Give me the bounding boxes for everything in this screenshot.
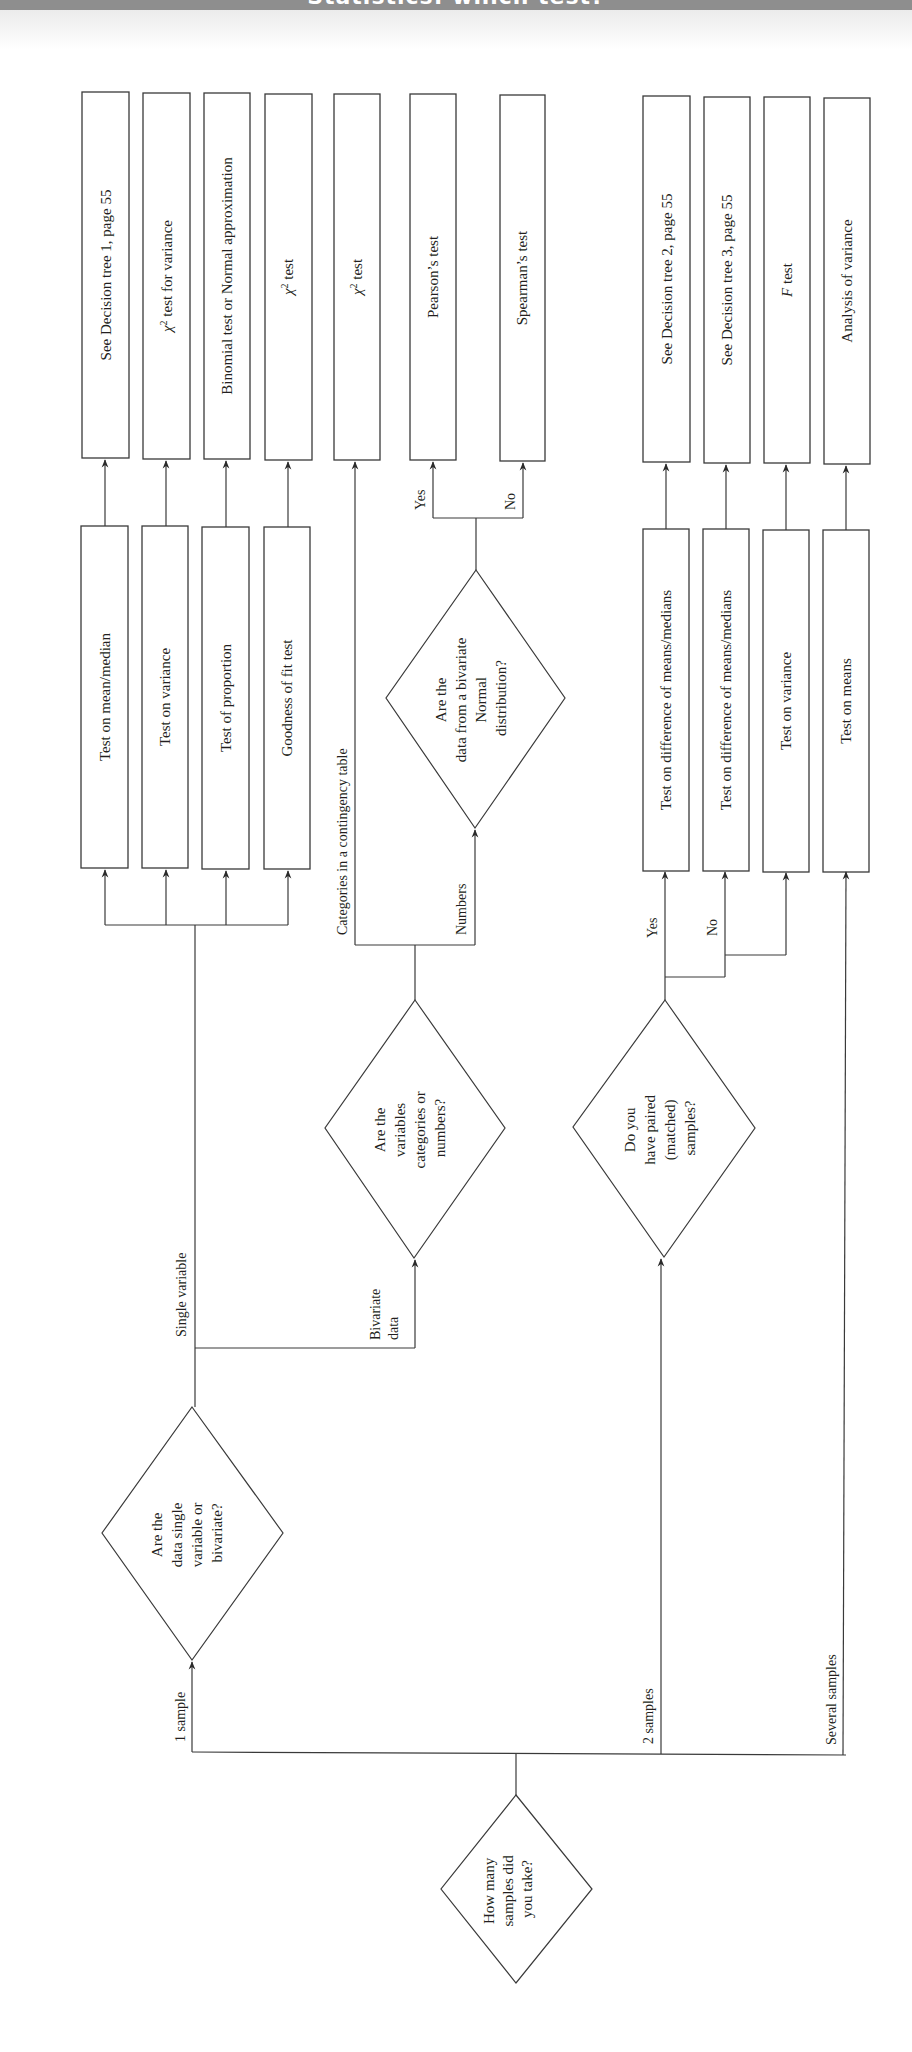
svg-text:Analysis of variance: Analysis of variance [839, 219, 855, 343]
decision-categories-or-numbers: Are the variables categories or numbers? [325, 1000, 505, 1258]
box-test-mean-median: Test on mean/median [81, 526, 128, 868]
outcome-box-binomial: Binomial test or Normal approximation [204, 93, 250, 459]
outcome-box-chi-contingency: χ2 test [334, 94, 380, 460]
svg-text:Test on difference of means/me: Test on difference of means/medians [718, 590, 734, 810]
svg-text:No: No [503, 493, 518, 510]
svg-text:Binomial test or Normal approx: Binomial test or Normal approximation [219, 157, 235, 395]
svg-text:Pearson’s test: Pearson’s test [425, 235, 441, 318]
decision-tree-diagram: See Decision tree 1, page 55 χ2 test for… [0, 0, 912, 2052]
box-test-variance-single: Test on variance [142, 526, 188, 868]
outcome-box-tree1: See Decision tree 1, page 55 [82, 92, 129, 458]
svg-text:See Decision tree 3, page 55: See Decision tree 3, page 55 [719, 195, 735, 366]
svg-text:1 sample: 1 sample [173, 1692, 188, 1742]
svg-text:Test on variance: Test on variance [157, 648, 173, 746]
box-goodness-of-fit: Goodness of fit test [264, 527, 310, 869]
box-diff-means-paired: Test on difference of means/medians [643, 529, 689, 871]
decision-paired-samples: Do you have paired (matched) samples? [573, 1000, 755, 1257]
outcome-box-spearman: Spearman’s test [500, 95, 545, 461]
decision-bivariate-normal: Are the data from a bivariate Normal dis… [386, 570, 565, 828]
svg-text:Test on variance: Test on variance [778, 652, 794, 750]
outcome-box-pearson: Pearson’s test [410, 94, 456, 460]
svg-text:Test on difference of means/me: Test on difference of means/medians [658, 590, 674, 810]
svg-text:No: No [705, 919, 720, 936]
outcome-box-chi-gof: χ2 test [265, 94, 312, 460]
svg-text:Test on means: Test on means [838, 658, 854, 744]
svg-text:Several samples: Several samples [824, 1654, 839, 1745]
outcome-label: See Decision tree 1, page 55 [98, 190, 114, 361]
svg-text:data: data [386, 1316, 401, 1340]
svg-text:χ2 test: χ2 test [279, 258, 297, 297]
svg-text:Single variable: Single variable [174, 1253, 189, 1337]
box-test-variance-two: Test on variance [763, 530, 809, 872]
svg-text:Test on mean/median: Test on mean/median [97, 632, 113, 761]
outcome-box-chi-variance: χ2 test for variance [143, 93, 190, 459]
outcome-box-f-test: F test [764, 97, 810, 463]
svg-text:Goodness of fit test: Goodness of fit test [279, 639, 295, 757]
box-test-proportion: Test of proportion [202, 527, 249, 869]
svg-text:2 samples: 2 samples [641, 1688, 656, 1744]
svg-text:See Decision tree 2, page 55: See Decision tree 2, page 55 [659, 194, 675, 365]
svg-text:Spearman’s test: Spearman’s test [514, 230, 530, 325]
box-test-means-several: Test on means [823, 530, 869, 872]
svg-text:χ2 test for variance: χ2 test for variance [158, 220, 176, 334]
svg-text:How many samples did: How many samples did you take? [481, 1852, 535, 1927]
svg-text:Numbers: Numbers [454, 884, 469, 935]
svg-text:χ2 test: χ2 test [348, 258, 366, 297]
box-diff-means-unpaired: Test on difference of means/medians [703, 529, 749, 871]
outcome-box-tree2: See Decision tree 2, page 55 [643, 96, 690, 462]
svg-text:Yes: Yes [413, 490, 428, 510]
svg-text:F test: F test [779, 262, 795, 298]
decision-single-or-bivariate: Are the data single variable or bivariat… [102, 1407, 283, 1660]
svg-text:Test of proportion: Test of proportion [218, 643, 234, 752]
decision-how-many-samples: How many samples did you take? [441, 1795, 592, 1983]
svg-text:Yes: Yes [645, 918, 660, 938]
outcome-box-anova: Analysis of variance [824, 98, 870, 464]
svg-text:Categories in a contingency ta: Categories in a contingency table [335, 748, 350, 935]
outcome-box-tree3: See Decision tree 3, page 55 [704, 97, 750, 463]
svg-text:Bivariate: Bivariate [368, 1289, 383, 1340]
